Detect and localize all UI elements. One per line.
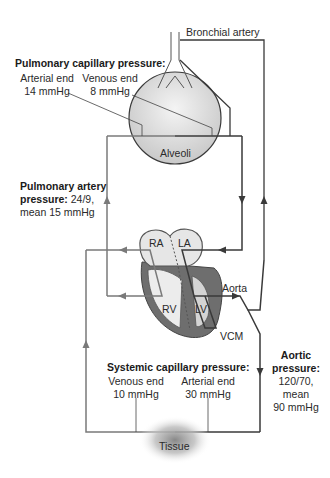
alveoli-label: Alveoli: [160, 147, 191, 160]
arrow-down-pulmonary-vein: [239, 196, 246, 204]
aortic-title: Aortic: [266, 349, 326, 362]
aorta-label: Aorta: [222, 282, 247, 295]
pulmonary-artery-value: 24/9,: [68, 193, 94, 205]
pulmonary-capillary-title: Pulmonary capillary pressure:: [15, 57, 166, 70]
systemic-arterial-end-label: Arterial end 30 mmHg: [176, 375, 240, 401]
aortic-value: 120/70,: [266, 375, 326, 388]
systemic-venous-end-text: Venous end: [106, 375, 166, 388]
systemic-venous-end-label: Venous end 10 mmHg: [106, 375, 166, 401]
pulmonary-artery-title: Pulmonary artery: [20, 180, 106, 193]
pulmonary-artery-pressure-word: pressure:: [20, 193, 68, 205]
pulmonary-venous-end-value: 8 mmHg: [82, 85, 138, 98]
arrow-up-bronchial: [261, 196, 268, 204]
pulmonary-artery-mean: mean 15 mmHg: [20, 206, 106, 219]
pulmonary-arterial-end-label: Arterial end 14 mmHg: [18, 72, 76, 98]
lv-label: LV: [195, 303, 207, 316]
pulmonary-venous-end-text: Venous end: [82, 72, 138, 85]
systemic-arterial-end-text: Arterial end: [176, 375, 240, 388]
bronchial-artery-label: Bronchial artery: [186, 26, 260, 39]
ra-label: RA: [149, 237, 164, 250]
la-label: LA: [178, 237, 191, 250]
aortic-mean-word: mean: [266, 388, 326, 401]
pulmonary-artery-pressure-label: Pulmonary artery pressure: 24/9, mean 15…: [20, 180, 106, 219]
systemic-arterial-end-value: 30 mmHg: [176, 388, 240, 401]
aortic-mean-value: 90 mmHg: [266, 401, 326, 414]
aortic-pressure-label: Aortic pressure: 120/70, mean 90 mmHg: [266, 349, 326, 414]
tissue-label: Tissue: [159, 440, 190, 453]
systemic-capillary-title: Systemic capillary pressure:: [107, 361, 249, 374]
pulmonary-arterial-end-text: Arterial end: [18, 72, 76, 85]
pulmonary-venous-end-label: Venous end 8 mmHg: [82, 72, 138, 98]
pulmonary-arterial-end-value: 14 mmHg: [18, 85, 76, 98]
vcm-label: VCM: [220, 330, 243, 343]
systemic-venous-end-value: 10 mmHg: [106, 388, 166, 401]
aortic-pressure-word: pressure:: [266, 362, 326, 375]
rv-label: RV: [162, 303, 176, 316]
